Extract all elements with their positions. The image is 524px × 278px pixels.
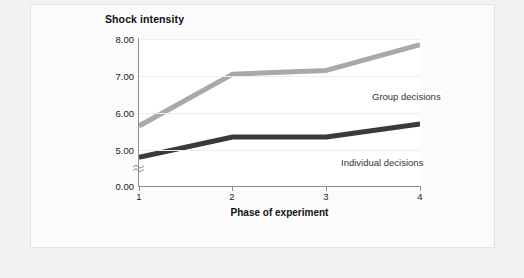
y-tick-5: 5.00 [100, 145, 134, 156]
individual-decisions-line [139, 124, 420, 157]
gridline-7 [139, 76, 420, 77]
plot-area: Group decisions Individual decisions [139, 39, 420, 186]
y-tick-6: 6.00 [100, 108, 134, 119]
x-tick-3: 3 [316, 191, 336, 202]
x-tick-2: 2 [222, 191, 242, 202]
y-tick-8: 8.00 [100, 34, 134, 45]
individual-decisions-label: Individual decisions [339, 157, 425, 168]
gridline-5 [139, 150, 420, 151]
chart-screenshot: Shock intensity Group decisions Individu… [0, 0, 524, 278]
x-axis-title: Phase of experiment [139, 207, 420, 218]
y-tick-7: 7.00 [100, 71, 134, 82]
gridline-6 [139, 113, 420, 114]
gridline-8 [139, 39, 420, 40]
x-axis-line [138, 186, 421, 187]
x-tick-4: 4 [410, 191, 430, 202]
axis-break-icon [132, 162, 145, 175]
x-tick-1: 1 [129, 191, 149, 202]
y-axis-labels: 8.00 7.00 6.00 5.00 0.00 [98, 0, 134, 278]
group-decisions-label: Group decisions [370, 91, 443, 102]
